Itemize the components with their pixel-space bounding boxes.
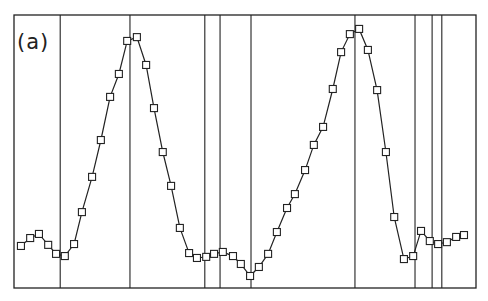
square-marker: [364, 46, 371, 53]
square-marker: [97, 137, 104, 144]
square-marker: [53, 250, 60, 257]
square-marker: [291, 191, 298, 198]
square-marker: [418, 227, 425, 234]
panel-label: (a): [17, 30, 49, 54]
square-marker: [426, 238, 433, 245]
square-marker: [143, 61, 150, 68]
square-marker: [133, 34, 140, 41]
square-marker: [61, 253, 68, 260]
square-marker: [310, 141, 317, 148]
square-marker: [255, 263, 262, 270]
square-marker: [435, 241, 442, 248]
square-marker: [443, 239, 450, 246]
square-marker: [453, 233, 460, 240]
data-line: [21, 29, 464, 276]
square-marker: [265, 250, 272, 257]
square-marker: [45, 241, 52, 248]
square-marker: [78, 209, 85, 216]
square-marker: [229, 253, 236, 260]
square-marker: [219, 248, 226, 255]
square-marker: [247, 272, 254, 279]
square-marker: [168, 182, 175, 189]
square-marker: [237, 260, 244, 267]
square-marker: [17, 242, 24, 249]
square-marker: [124, 37, 131, 44]
square-marker: [107, 93, 114, 100]
square-marker: [302, 167, 309, 174]
plot-frame: [14, 15, 476, 288]
square-marker: [273, 229, 280, 236]
square-marker: [382, 149, 389, 156]
square-marker: [391, 214, 398, 221]
square-marker: [356, 25, 363, 32]
square-marker: [115, 70, 122, 77]
square-marker: [150, 105, 157, 112]
square-marker: [176, 224, 183, 231]
square-marker: [35, 230, 42, 237]
square-marker: [186, 250, 193, 257]
square-marker: [193, 254, 200, 261]
square-marker: [89, 173, 96, 180]
square-marker: [374, 87, 381, 94]
square-marker: [27, 235, 34, 242]
square-marker: [203, 253, 210, 260]
square-marker: [320, 123, 327, 130]
square-marker: [159, 149, 166, 156]
square-marker: [460, 232, 467, 239]
square-marker: [284, 205, 291, 212]
square-marker: [329, 85, 336, 92]
square-marker: [410, 253, 417, 260]
square-marker: [400, 256, 407, 263]
square-marker: [338, 49, 345, 56]
square-marker: [71, 241, 78, 248]
square-marker: [346, 31, 353, 38]
line-chart: [0, 0, 488, 301]
square-marker: [211, 250, 218, 257]
